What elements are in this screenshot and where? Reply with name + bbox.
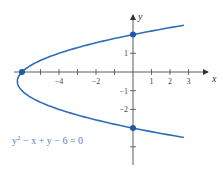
y-axis-label: y	[137, 11, 143, 22]
ticks	[22, 53, 189, 147]
x-tick-label: 1	[150, 77, 154, 86]
intercept-point	[130, 125, 136, 131]
marked-points	[19, 32, 136, 132]
x-tick-label: 2	[168, 77, 172, 86]
labels: −4−21231−1−2xyy2 − x + y − 6 = 0	[12, 11, 217, 146]
parabola-path	[17, 25, 184, 137]
y-tick-label: −2	[119, 105, 128, 114]
parabola-curve	[17, 25, 184, 137]
y-tick-label: 1	[124, 49, 128, 58]
x-tick-label: −4	[55, 77, 64, 86]
intercept-point	[130, 32, 136, 38]
parabola-chart: −4−21231−1−2xyy2 − x + y − 6 = 0	[0, 0, 223, 170]
equation-label: y2 − x + y − 6 = 0	[12, 134, 83, 146]
intercept-point	[19, 69, 25, 75]
y-tick-label: −1	[119, 87, 128, 96]
x-tick-label: −2	[92, 77, 101, 86]
x-axis-label: x	[211, 73, 217, 84]
x-tick-label: 3	[187, 77, 191, 86]
